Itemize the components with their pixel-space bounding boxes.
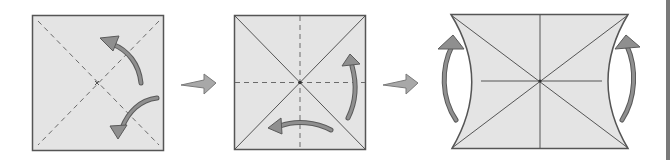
step-2-panel <box>235 16 366 150</box>
curved-arrow-right-side-up-icon <box>615 35 640 120</box>
center-point <box>298 81 302 85</box>
center-point <box>538 79 541 82</box>
step-1-panel <box>33 16 164 151</box>
curved-arrow-left-side-up-icon <box>438 35 464 120</box>
next-step-arrow-icon <box>181 74 216 94</box>
next-step-arrow-icon <box>383 74 418 94</box>
origami-diagram <box>0 0 670 160</box>
step-3-panel <box>438 15 640 149</box>
page-edge-strip <box>666 0 670 160</box>
